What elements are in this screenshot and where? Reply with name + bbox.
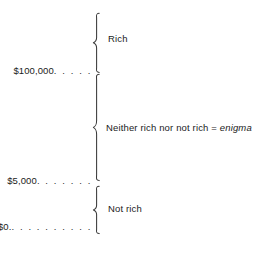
- wealth-scale-diagram: $100,000. . . . . $5,000. . . . . . . $0…: [0, 0, 278, 255]
- brace-not-rich: [88, 185, 102, 235]
- band-label-enigma: Neither rich nor not rich = enigma: [106, 122, 252, 133]
- axis-leader-dots-0: . . . . . . . . . .: [11, 221, 92, 232]
- axis-leader-dots-5000: . . . . . . .: [37, 175, 92, 186]
- axis-label-5000: $5,000. . . . . . .: [7, 175, 92, 186]
- band-label-not-rich: Not rich: [108, 203, 142, 214]
- brace-neither-rich-nor-not-rich: [88, 73, 102, 183]
- band-label-not-rich-text: Not rich: [108, 203, 142, 214]
- axis-amount-5000: $5,000: [7, 175, 37, 186]
- axis-leader-dots-100000: . . . . .: [54, 65, 92, 76]
- band-label-rich: Rich: [108, 33, 128, 44]
- band-label-enigma-term: enigma: [220, 122, 252, 133]
- band-label-enigma-text: Neither rich nor not rich =: [106, 122, 220, 133]
- axis-label-0: $0.. . . . . . . . . .: [0, 221, 92, 232]
- axis-amount-0: $0.: [0, 221, 11, 232]
- brace-rich: [88, 12, 102, 74]
- band-label-rich-text: Rich: [108, 33, 128, 44]
- axis-amount-100000: $100,000: [13, 65, 53, 76]
- axis-label-100000: $100,000. . . . .: [13, 65, 92, 76]
